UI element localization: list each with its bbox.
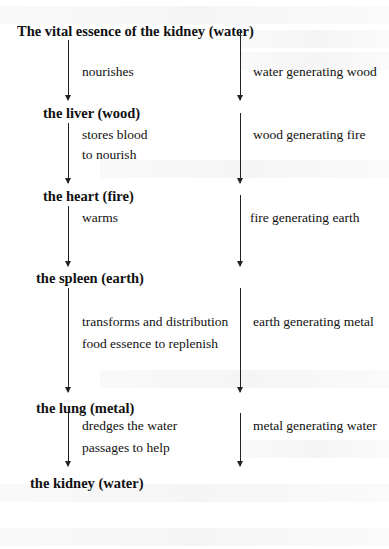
arrow-right-1	[240, 30, 241, 100]
background-text-bleed	[240, 440, 389, 458]
node-lung: the lung (metal)	[36, 400, 134, 416]
arrow-left-4	[68, 288, 69, 392]
left-label-5a: dredges the water	[82, 418, 177, 434]
background-text-bleed	[100, 160, 389, 178]
arrow-left-5	[68, 413, 69, 466]
node-liver: the liver (wood)	[43, 105, 140, 121]
background-text-bleed	[240, 30, 389, 48]
left-label-2a: stores blood	[82, 127, 148, 143]
right-label-5: metal generating water	[253, 418, 377, 434]
right-label-1: water generating wood	[253, 64, 377, 80]
arrow-right-5	[240, 413, 241, 466]
arrow-left-3	[68, 206, 69, 266]
background-text-bleed	[100, 370, 389, 388]
background-text-bleed	[0, 6, 389, 24]
arrow-right-2	[240, 113, 241, 183]
left-label-1: nourishes	[82, 64, 134, 80]
arrow-left-2	[68, 123, 69, 183]
left-label-5b: passages to help	[82, 440, 170, 456]
left-label-3: warms	[82, 210, 118, 226]
left-label-4b: food essence to replenish	[82, 336, 218, 352]
node-spleen: the spleen (earth)	[36, 270, 144, 286]
arrow-right-3	[240, 195, 241, 266]
left-label-4a: transforms and distribution	[82, 314, 228, 330]
arrow-right-4	[240, 288, 241, 392]
node-kidney-essence: The vital essence of the kidney (water)	[17, 23, 254, 39]
left-label-2b: to nourish	[82, 147, 136, 163]
background-text-bleed	[0, 528, 389, 546]
right-label-3: fire generating earth	[250, 210, 359, 226]
node-kidney: the kidney (water)	[30, 475, 144, 491]
right-label-4: earth generating metal	[253, 314, 374, 330]
right-label-2: wood generating fire	[253, 127, 365, 143]
node-heart: the heart (fire)	[43, 188, 134, 204]
arrow-left-1	[68, 40, 69, 100]
